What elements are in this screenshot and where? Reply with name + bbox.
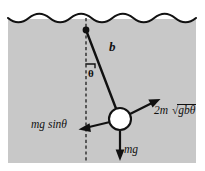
radicand-text: gbθ [177, 104, 196, 117]
drag-force-label: 2m √gbθ [154, 104, 196, 117]
physics-diagram-figure: b θ mg sinθ mg 2m √gbθ [0, 0, 205, 171]
tangential-gravity-label: mg sinθ [31, 119, 67, 131]
diagram-canvas [0, 0, 205, 171]
tangential-gravity-label-text: mg sinθ [31, 118, 67, 130]
weight-label-text: mg [124, 143, 138, 155]
weight-label: mg [124, 144, 138, 156]
angle-label: θ [88, 68, 94, 79]
pivot-point [83, 27, 90, 34]
square-root-icon: √gbθ [168, 104, 196, 117]
rod-length-label: b [109, 40, 116, 53]
pendulum-bob [109, 108, 131, 130]
water-body-fill [8, 19, 196, 163]
drag-coefficient-text: 2m [154, 104, 168, 116]
